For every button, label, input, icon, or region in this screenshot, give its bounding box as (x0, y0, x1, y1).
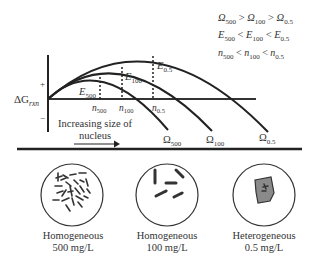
energy-label-0.5: E0.5 (156, 60, 173, 74)
omega-relation: Ω500 > Ω100 > Ω0.5 (218, 12, 293, 26)
size-relation: n500 < n100 < n0.5 (218, 47, 285, 61)
panel-1-caption: Homogeneous 500 mg/L (32, 230, 114, 254)
plus-sign: + (40, 79, 45, 89)
panel-2-concentration: 100 mg/L (126, 242, 208, 254)
energy-label-100: E100 (124, 71, 142, 85)
omega-label-500: Ω500 (163, 134, 182, 148)
few-nuclei-icon (155, 170, 183, 197)
panel-1-type: Homogeneous (32, 230, 114, 242)
panel-homogeneous-500 (41, 164, 103, 226)
arrow-head-icon (114, 141, 120, 148)
panel-2-caption: Homogeneous 100 mg/L (126, 230, 208, 254)
n-label-0.5: n0.5 (152, 103, 165, 114)
panel-3-concentration: 0.5 mg/L (222, 242, 306, 254)
relations-block: Ω500 > Ω100 > Ω0.5 E500 < E100 < E0.5 n5… (217, 12, 293, 61)
delta-g-label: ΔGrxn (14, 93, 39, 108)
energy-label-500: E500 (78, 86, 96, 100)
nucleation-diagram: Ω500 > Ω100 > Ω0.5 E500 < E100 < E0.5 n5… (0, 0, 314, 260)
panel-homogeneous-100 (136, 164, 198, 226)
beaker-circle (136, 164, 198, 226)
panel-1-concentration: 500 mg/L (32, 242, 114, 254)
many-nuclei-icon (53, 173, 90, 211)
panel-3-type: Heterogeneous (222, 230, 306, 242)
foreign-particle-icon (255, 177, 274, 203)
arrow-text-line1: Increasing size of (58, 118, 133, 129)
panel-2-type: Homogeneous (126, 230, 208, 242)
n-label-100: n100 (119, 103, 134, 114)
n-label-500: n500 (92, 103, 107, 114)
panel-3-caption: Heterogeneous 0.5 mg/L (222, 230, 306, 254)
panel-heterogeneous-0.5 (233, 164, 295, 226)
omega-label-0.5: Ω0.5 (259, 132, 276, 146)
omega-label-100: Ω100 (206, 134, 225, 148)
arrow-text-line2: nucleus (79, 130, 111, 141)
minus-sign: − (40, 113, 45, 123)
energy-relation: E500 < E100 < E0.5 (217, 29, 290, 43)
